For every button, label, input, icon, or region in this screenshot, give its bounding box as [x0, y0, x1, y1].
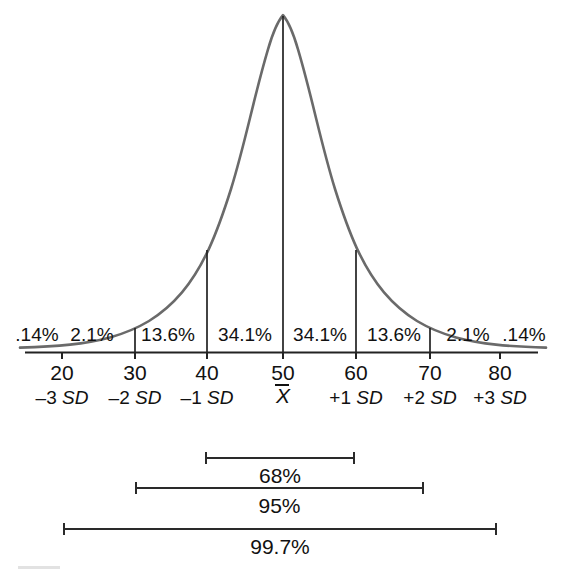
sd-sign: +3 — [473, 387, 495, 408]
band-percent-label: 13.6% — [141, 325, 195, 344]
band-percent-label: 34.1% — [293, 325, 347, 344]
sd-unit: SD — [207, 387, 233, 408]
sd-label-plus-1: +1 SD — [329, 388, 382, 407]
sd-sign: –2 — [109, 387, 130, 408]
interval-label: 68% — [205, 465, 355, 486]
x-axis-tick-label: 80 — [488, 362, 511, 383]
x-axis-tick-label: 40 — [195, 362, 218, 383]
x-bar-glyph: X — [276, 384, 290, 406]
band-percent-label: .14% — [15, 325, 58, 344]
sd-label-minus-3: –3 SD — [36, 388, 89, 407]
sd-label-minus-1: –1 SD — [181, 388, 234, 407]
band-percent-label: .14% — [502, 325, 545, 344]
sd-label-plus-2: +2 SD — [403, 388, 456, 407]
sd-sign: –3 — [36, 387, 57, 408]
band-percent-label: 2.1% — [446, 325, 489, 344]
sd-unit: SD — [430, 387, 456, 408]
bracket-cap-left — [63, 523, 65, 535]
sd-unit: SD — [135, 387, 161, 408]
sd-label-plus-3: +3 SD — [473, 388, 526, 407]
x-axis-tick-label: 50 — [271, 362, 294, 383]
normal-distribution-figure: .14% 2.1% 13.6% 34.1% 34.1% 13.6% 2.1% .… — [0, 0, 565, 573]
x-axis-tick-label: 30 — [123, 362, 146, 383]
x-axis-tick-label: 70 — [418, 362, 441, 383]
sd-divider-lines — [135, 16, 430, 352]
sd-sign: –1 — [181, 387, 202, 408]
interval-bracket-95: 95% — [135, 487, 424, 531]
sd-sign: +2 — [403, 387, 425, 408]
scan-artifact — [18, 566, 60, 569]
bracket-cap-right — [495, 523, 497, 535]
sd-unit: SD — [356, 387, 382, 408]
sd-unit: SD — [62, 387, 88, 408]
band-percent-label: 34.1% — [218, 325, 272, 344]
interval-label: 95% — [135, 495, 424, 516]
interval-label: 99.7% — [63, 536, 497, 557]
mean-symbol-label: X — [276, 384, 290, 406]
sd-unit: SD — [500, 387, 526, 408]
bracket-line — [63, 528, 497, 530]
sd-sign: +1 — [329, 387, 351, 408]
interval-bracket-997: 99.7% — [63, 528, 497, 572]
bracket-line — [135, 487, 424, 489]
band-percent-label: 13.6% — [367, 325, 421, 344]
bracket-cap-left — [205, 452, 207, 464]
bracket-cap-right — [422, 482, 424, 494]
bracket-cap-right — [353, 452, 355, 464]
x-axis-tick-label: 60 — [344, 362, 367, 383]
bracket-cap-left — [135, 482, 137, 494]
sd-label-minus-2: –2 SD — [109, 388, 162, 407]
bracket-line — [205, 457, 355, 459]
distribution-plot — [0, 0, 565, 420]
x-axis-tick-label: 20 — [50, 362, 73, 383]
band-percent-label: 2.1% — [70, 325, 113, 344]
